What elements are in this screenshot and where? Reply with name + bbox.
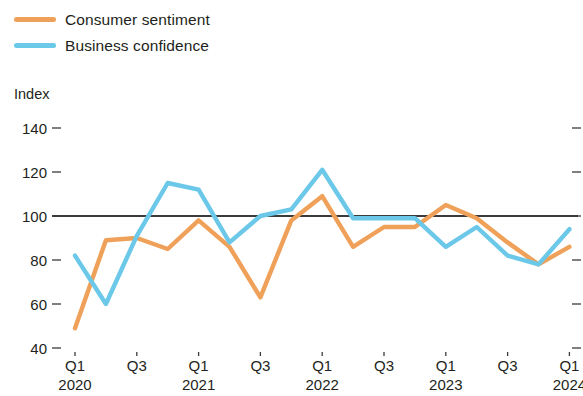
svg-text:80: 80 [30, 252, 47, 269]
y-axis-tick-labels: 140120100806040 [22, 120, 47, 357]
x-axis-tick-marks [75, 352, 569, 356]
svg-text:Q3: Q3 [127, 357, 147, 374]
svg-text:100: 100 [22, 208, 47, 225]
chart-container: Consumer sentiment Business confidence I… [0, 0, 583, 396]
svg-text:140: 140 [22, 120, 47, 137]
svg-text:Q3: Q3 [374, 357, 394, 374]
svg-text:Q1: Q1 [65, 357, 85, 374]
x-axis-tick-labels: Q12020Q3Q12021Q3Q12022Q3Q12023Q3Q12024 [58, 357, 583, 393]
svg-text:Q3: Q3 [250, 357, 270, 374]
y-axis-tick-marks-left [52, 128, 61, 348]
svg-text:2024: 2024 [553, 376, 583, 393]
svg-text:40: 40 [30, 340, 47, 357]
svg-text:Q1: Q1 [559, 357, 579, 374]
svg-text:60: 60 [30, 296, 47, 313]
svg-text:2022: 2022 [306, 376, 339, 393]
svg-text:Q1: Q1 [312, 357, 332, 374]
svg-text:2021: 2021 [182, 376, 215, 393]
data-series-group [75, 170, 569, 328]
chart-plot-area: 140120100806040 Q12020Q3Q12021Q3Q12022Q3… [0, 0, 583, 396]
svg-text:Q1: Q1 [189, 357, 209, 374]
series-line-business-confidence [75, 170, 569, 304]
svg-text:Q1: Q1 [436, 357, 456, 374]
svg-text:120: 120 [22, 164, 47, 181]
svg-text:2020: 2020 [58, 376, 91, 393]
y-axis-tick-marks-right [572, 128, 581, 348]
svg-text:2023: 2023 [429, 376, 462, 393]
svg-text:Q3: Q3 [498, 357, 518, 374]
